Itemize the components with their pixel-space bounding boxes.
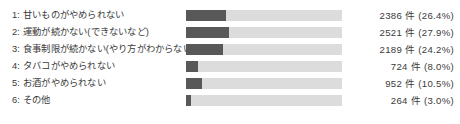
bar-value-label: 2189 件 (24.2%)	[344, 41, 454, 58]
bar-category-label: 3: 食事制限が続かない(やり方がわからないなど)	[12, 41, 214, 58]
table-row: 1: 甘いものがやめられない 2386 件 (26.4%)	[0, 7, 460, 24]
bar-value-label: 724 件 (8.0%)	[344, 58, 454, 75]
bar-category-label: 4: タバコがやめられない	[12, 58, 115, 75]
bar-category-label: 5: お酒がやめられない	[12, 75, 106, 92]
bar-value-label: 264 件 (3.0%)	[344, 92, 454, 109]
table-row: 6: その他 264 件 (3.0%)	[0, 92, 460, 109]
bar-category-label: 1: 甘いものがやめられない	[12, 7, 124, 24]
bar-value-label: 2386 件 (26.4%)	[344, 7, 454, 24]
bar-category-label: 6: その他	[12, 92, 51, 109]
bar-category-label: 2: 運動が続かない(できないなど)	[12, 24, 149, 41]
bar-track	[186, 44, 342, 55]
bar-fill	[186, 95, 191, 106]
chart-rows: 1: 甘いものがやめられない 2386 件 (26.4%) 2: 運動が続かない…	[0, 0, 460, 124]
table-row: 3: 食事制限が続かない(やり方がわからないなど) 2189 件 (24.2%)	[0, 41, 460, 58]
horizontal-bar-chart: 1: 甘いものがやめられない 2386 件 (26.4%) 2: 運動が続かない…	[0, 0, 460, 124]
table-row: 4: タバコがやめられない 724 件 (8.0%)	[0, 58, 460, 75]
bar-fill	[186, 27, 229, 38]
table-row: 5: お酒がやめられない 952 件 (10.5%)	[0, 75, 460, 92]
bar-track	[186, 10, 342, 21]
bar-value-label: 952 件 (10.5%)	[344, 75, 454, 92]
table-row: 2: 運動が続かない(できないなど) 2521 件 (27.9%)	[0, 24, 460, 41]
bar-fill	[186, 10, 226, 21]
bar-track	[186, 78, 342, 89]
bar-fill	[186, 78, 202, 89]
bar-value-label: 2521 件 (27.9%)	[344, 24, 454, 41]
bar-track	[186, 61, 342, 72]
bar-fill	[186, 44, 223, 55]
bar-track	[186, 95, 342, 106]
bar-fill	[186, 61, 198, 72]
bar-track	[186, 27, 342, 38]
